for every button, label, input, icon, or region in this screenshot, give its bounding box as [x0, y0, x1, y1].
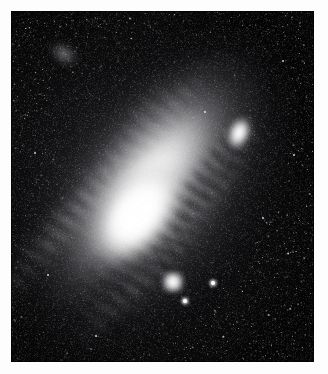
astronomical-photo-plate — [11, 11, 314, 362]
photo-page — [0, 0, 328, 374]
companion-galaxy-ngc205 — [162, 271, 184, 293]
star-cloud-ngc206 — [44, 36, 84, 72]
